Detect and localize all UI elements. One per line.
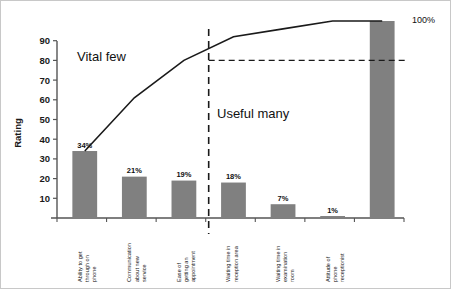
- x-axis-category-label: Waiting time inreception area: [225, 245, 238, 282]
- x-axis-category-label-line: Ability to get: [77, 251, 83, 282]
- y-axis-tick-label: 80: [39, 55, 50, 66]
- useful-many-annotation: Useful many: [217, 106, 290, 121]
- x-axis-category-label: Ability to getthrough onphone: [77, 251, 97, 282]
- bar-value-label: 21%: [127, 166, 142, 175]
- y-axis-tick-label: 20: [39, 173, 50, 184]
- x-axis-category-label-line: Waiting time in: [225, 246, 231, 282]
- y-axis-tick-label: 10: [39, 193, 50, 204]
- x-axis-category-label-line: Communication: [126, 243, 132, 282]
- x-axis-category-label-line: phone: [332, 266, 338, 282]
- x-axis-category-label-line: getting an: [183, 257, 189, 282]
- x-axis-category-labels: Ability to getthrough onphoneCommunicati…: [77, 243, 345, 282]
- bar-value-label: 1%: [327, 206, 338, 215]
- bar-value-labels: 34%21%19%18%7%1%: [77, 141, 338, 215]
- x-axis-category-label-line: phone: [91, 266, 97, 282]
- bar: [320, 216, 345, 218]
- x-axis-category-label: Attitude ofphonereceptionist: [325, 253, 345, 282]
- x-axis-category-label-line: appointment: [190, 251, 196, 282]
- y-axis-tick-label: 30: [39, 153, 50, 164]
- y-axis-ticks: 102030405060708090: [39, 35, 57, 204]
- y-axis-tick-label: 90: [39, 35, 50, 46]
- y-axis-tick-label: 60: [39, 94, 50, 105]
- x-axis-category-label-line: through on: [84, 255, 90, 282]
- bar-value-label: 7%: [278, 194, 289, 203]
- y-axis-title: Rating: [12, 118, 23, 148]
- bar: [72, 151, 97, 218]
- y-axis-tick-label: 50: [39, 114, 50, 125]
- y-axis-tick-label: 40: [39, 134, 50, 145]
- x-axis-category-label: Waiting time inexaminationroom: [275, 246, 295, 282]
- bar-value-label: 19%: [176, 170, 191, 179]
- chart-canvas: 102030405060708090 Rating 34%21%19%18%7%…: [1, 1, 451, 289]
- x-axis-category-label-line: Ease of: [176, 263, 182, 282]
- total-percent-annotation: 100%: [412, 15, 435, 25]
- pareto-chart-figure: 102030405060708090 Rating 34%21%19%18%7%…: [0, 0, 451, 289]
- x-axis-category-label: Communicationabout newservice: [126, 243, 146, 282]
- x-axis-category-label-line: Attitude of: [325, 256, 331, 282]
- cumulative-pareto-line: [85, 21, 382, 151]
- bar: [122, 177, 147, 218]
- total-bar: [370, 21, 395, 218]
- bar: [172, 181, 197, 218]
- x-axis-category-label: Ease ofgetting anappointment: [176, 251, 196, 282]
- bar: [221, 183, 246, 218]
- x-axis-category-label-line: reception area: [233, 245, 239, 282]
- x-axis-category-label-line: about new: [134, 255, 140, 282]
- x-axis-category-label-line: service: [141, 264, 147, 282]
- x-axis-category-label-line: receptionist: [339, 253, 345, 282]
- bar: [271, 204, 296, 218]
- bar-value-label: 18%: [226, 172, 241, 181]
- y-axis-tick-label: 70: [39, 75, 50, 86]
- x-axis-category-label-line: Waiting time in: [275, 246, 281, 282]
- vital-few-annotation: Vital few: [77, 49, 127, 64]
- x-axis-category-label-line: room: [289, 269, 295, 282]
- x-axis-category-label-line: examination: [282, 252, 288, 282]
